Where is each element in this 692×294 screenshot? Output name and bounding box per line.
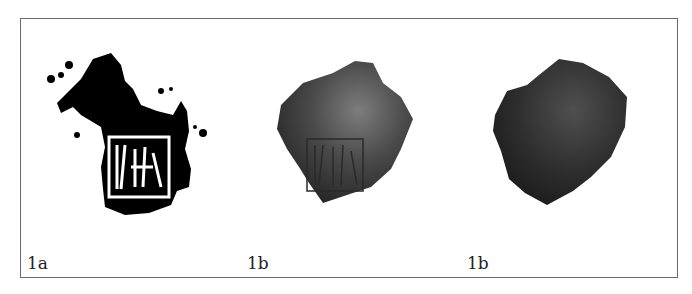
panel-1b-back: 1b <box>461 19 679 277</box>
panel-label-1b-front: 1b <box>247 253 269 273</box>
panel-1b-front: 1b <box>241 19 461 277</box>
panel-label-1a: 1a <box>27 253 48 273</box>
panel-1a: 1a <box>21 19 241 277</box>
figure-frame: 1a 1b <box>20 18 678 278</box>
panel-label-1b-back: 1b <box>467 253 489 273</box>
rubbing-image <box>21 19 241 279</box>
sherd-back-photo <box>461 19 679 279</box>
sherd-front-photo <box>241 19 461 279</box>
